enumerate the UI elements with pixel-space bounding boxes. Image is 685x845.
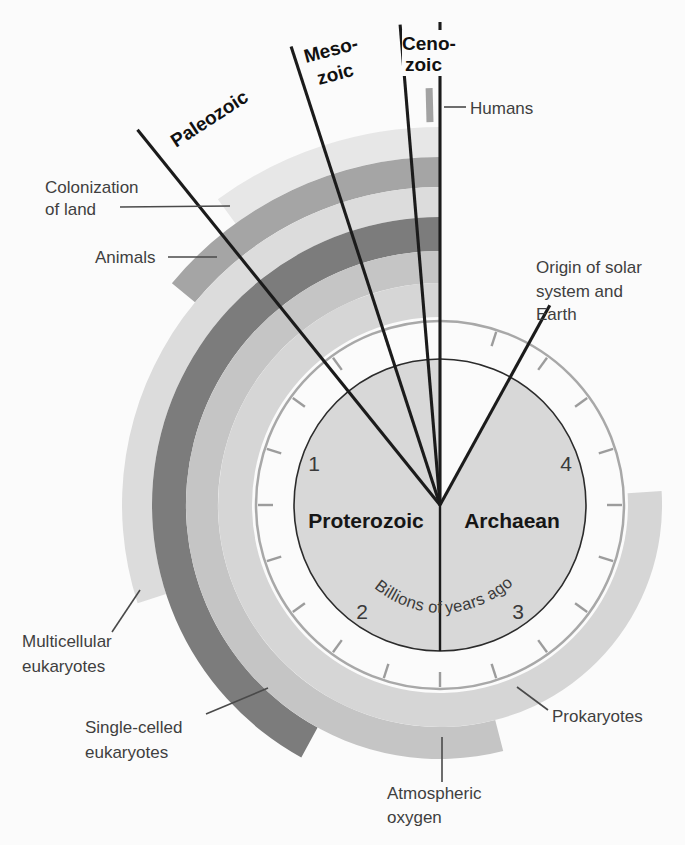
atmospheric-oxygen-label-line1: Atmospheric [387,784,482,803]
prokaryotes-label: Prokaryotes [552,707,643,726]
origin-label-line3: Earth [536,305,577,324]
era-label-cenozoic-line2: zoic [405,54,442,75]
clock-tick-mark [384,664,389,678]
era-label-paleozoic: Paleozoic [167,86,252,152]
scale-number-4: 4 [560,452,572,475]
clock-tick-mark [599,557,613,562]
scale-number-2: 2 [356,600,368,623]
clock-tick-mark [492,664,497,678]
humans-marker-bar [429,88,430,122]
geologic-clock-figure: 1 2 3 4 Proterozoic Archaean Billions of… [0,0,685,845]
multicellular-label-line2: eukaryotes [22,657,105,676]
colonization-leader-line [120,206,230,207]
era-label-mesozoic-line1: Meso- [302,32,360,66]
colonization-label-line2: of land [45,200,96,219]
scale-number-1: 1 [308,452,320,475]
atmospheric-oxygen-label-line2: oxygen [387,808,442,827]
clock-tick-mark [538,640,547,652]
animals-label: Animals [95,248,155,267]
humans-label: Humans [470,99,533,118]
eon-label-proterozoic: Proterozoic [308,509,424,532]
clock-tick-mark [492,332,497,346]
multicellular-leader-line [112,590,140,632]
clock-tick-mark [599,449,613,454]
single-celled-label-line1: Single-celled [85,718,182,737]
single-celled-label-line2: eukaryotes [85,743,168,762]
clock-tick-mark [575,398,587,407]
era-label-mesozoic-line2: zoic [315,59,357,89]
scale-number-3: 3 [512,600,524,623]
clock-diagram-svg: 1 2 3 4 Proterozoic Archaean Billions of… [0,0,685,845]
clock-tick-mark [293,603,305,612]
clock-tick-mark [575,603,587,612]
origin-label-line1: Origin of solar [536,258,642,277]
multicellular-label-line1: Multicellular [22,632,112,651]
clock-tick-mark [538,358,547,370]
clock-tick-mark [333,640,342,652]
eon-label-archaean: Archaean [464,509,560,532]
clock-tick-mark [293,398,305,407]
clock-tick-mark [333,358,342,370]
origin-label-line2: system and [536,282,623,301]
era-label-cenozoic-line1: Ceno- [402,33,456,54]
clock-tick-mark [267,557,281,562]
clock-tick-mark [267,449,281,454]
colonization-label-line1: Colonization [45,178,139,197]
